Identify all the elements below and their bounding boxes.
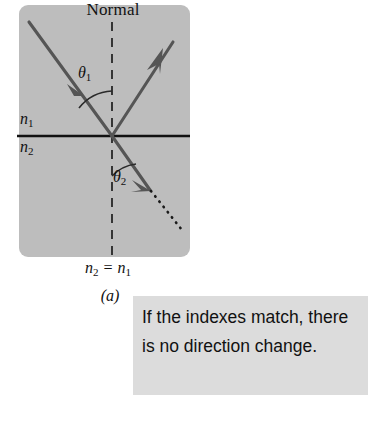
- upper-medium-index-label: n1: [20, 110, 34, 129]
- relation-left-subscript: 2: [93, 266, 99, 278]
- angle-of-incidence-label: θ1: [78, 64, 91, 83]
- relation-operator: =: [103, 259, 114, 276]
- caption-text: If the indexes match, there is no direct…: [142, 303, 359, 361]
- n1-symbol: n: [20, 110, 28, 127]
- refraction-figure: Normal θ1 θ2 n1 n2 n2 = n1 (a) If the in…: [0, 0, 374, 423]
- theta1-subscript: 1: [86, 71, 92, 83]
- theta1-symbol: θ: [78, 64, 86, 81]
- normal-label: Normal: [63, 0, 163, 20]
- relation-left-symbol: n: [85, 259, 93, 276]
- lower-medium-index-label: n2: [20, 138, 34, 157]
- index-relation-label: n2 = n1: [33, 259, 183, 278]
- theta2-subscript: 2: [121, 175, 127, 187]
- n1-subscript: 1: [28, 117, 34, 129]
- n2-symbol: n: [20, 138, 28, 155]
- relation-right-subscript: 1: [125, 266, 131, 278]
- caption-callout: If the indexes match, there is no direct…: [133, 296, 368, 395]
- n2-subscript: 2: [28, 145, 34, 157]
- angle-of-refraction-label: θ2: [113, 168, 126, 187]
- theta2-symbol: θ: [113, 168, 121, 185]
